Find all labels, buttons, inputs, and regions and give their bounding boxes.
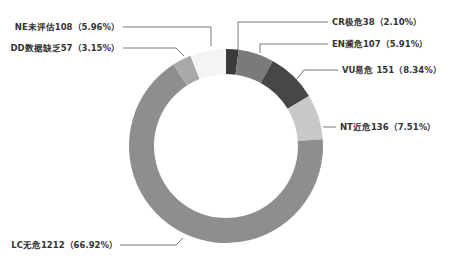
donut-chart: CR极危38（2.10%）EN濒危107（5.91%）VU易危 151（8.34…	[0, 0, 452, 268]
slice-label: CR极危38（2.10%）	[332, 17, 422, 27]
leader-line	[120, 238, 183, 245]
leader-line	[123, 27, 211, 46]
leader-line	[123, 48, 184, 56]
slice-label: LC无危1212（66.92%）	[11, 240, 118, 250]
leader-line	[296, 70, 338, 80]
slice-label: DD数据缺乏57（3.15%）	[11, 43, 120, 53]
leader-line	[238, 22, 328, 50]
slice-label: VU易危 151（8.34%）	[342, 65, 442, 75]
slice-label: NE未评估108（5.96%）	[15, 22, 120, 32]
slice-label: EN濒危107（5.91%）	[332, 39, 428, 49]
donut-slices	[129, 49, 323, 243]
leader-line	[260, 44, 328, 53]
slice-label: NT近危136（7.51%）	[340, 122, 436, 132]
